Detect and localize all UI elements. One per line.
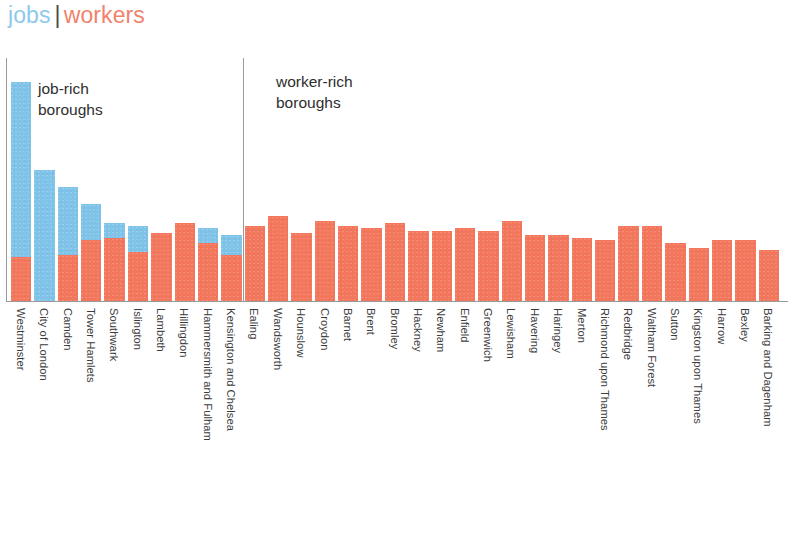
bar-tower-hamlets xyxy=(81,204,101,301)
x-axis-labels: WestminsterCity of LondonCamdenTower Ham… xyxy=(6,304,788,538)
bar-waltham-forest xyxy=(642,226,662,301)
bar-segment-workers xyxy=(104,238,124,301)
bar-segment-workers xyxy=(572,238,592,301)
bar-croydon xyxy=(315,221,335,301)
bar-harrow xyxy=(712,240,732,301)
x-axis-label: Waltham Forest xyxy=(645,308,656,387)
x-axis-label: Brent xyxy=(365,308,376,335)
bar-segment-workers xyxy=(642,226,662,301)
bar-bexley xyxy=(735,240,755,301)
bar-segment-workers xyxy=(408,231,428,301)
annotation-worker-rich: worker-rich boroughs xyxy=(276,71,353,113)
annotation-job-rich: job-rich boroughs xyxy=(38,78,103,120)
bar-segment-workers xyxy=(385,223,405,301)
x-axis-label: Sutton xyxy=(669,308,680,341)
x-axis-label: Lambeth xyxy=(155,308,166,352)
bar-newham xyxy=(432,231,452,301)
bar-hillingdon xyxy=(175,223,195,301)
x-axis-label: Ealing xyxy=(248,308,259,339)
bar-kingston-upon-thames xyxy=(689,248,709,301)
bar-segment-workers xyxy=(338,226,358,301)
bar-barking-and-dagenham xyxy=(759,250,779,301)
bar-bromley xyxy=(385,223,405,301)
bar-haringey xyxy=(548,235,568,301)
x-axis-label: Redbridge xyxy=(622,308,633,360)
x-axis-label: Havering xyxy=(529,308,540,353)
bar-segment-jobs xyxy=(11,82,31,257)
x-axis-label: Bromley xyxy=(388,308,399,349)
x-axis-label: Kensington and Chelsea xyxy=(225,308,236,431)
bar-segment-workers xyxy=(58,255,78,301)
x-axis-label: Hammersmith and Fulham xyxy=(201,308,212,441)
bar-segment-workers xyxy=(478,231,498,301)
bar-hammersmith-and-fulham xyxy=(198,228,218,301)
x-axis-label: Kingston upon Thames xyxy=(692,308,703,424)
x-axis-label: Harrow xyxy=(715,308,726,344)
x-axis-label: Enfield xyxy=(458,308,469,343)
bar-westminster xyxy=(11,82,31,301)
bar-ealing xyxy=(245,226,265,301)
bar-segment-workers xyxy=(81,240,101,301)
bar-segment-jobs xyxy=(104,223,124,238)
bar-barnet xyxy=(338,226,358,301)
chart-title: jobs|workers xyxy=(8,2,145,29)
bar-hounslow xyxy=(291,233,311,301)
bar-segment-workers xyxy=(759,250,779,301)
bar-lewisham xyxy=(502,221,522,301)
bar-camden xyxy=(58,187,78,301)
x-axis-label: City of London xyxy=(38,308,49,381)
bar-brent xyxy=(361,228,381,301)
x-axis-label: Southwark xyxy=(108,308,119,361)
bar-segment-jobs xyxy=(221,235,241,254)
x-axis-label: Islington xyxy=(131,308,142,350)
bar-segment-workers xyxy=(548,235,568,301)
bar-islington xyxy=(128,226,148,301)
bar-segment-jobs xyxy=(81,204,101,240)
bar-segment-workers xyxy=(595,240,615,301)
x-axis-label: Camden xyxy=(61,308,72,351)
x-axis-label: Wandsworth xyxy=(272,308,283,370)
bar-havering xyxy=(525,235,545,301)
bar-segment-jobs xyxy=(128,226,148,253)
bar-segment-workers xyxy=(455,228,475,301)
bar-segment-workers xyxy=(432,231,452,301)
x-axis-label: Hillingdon xyxy=(178,308,189,358)
x-axis-label: Croydon xyxy=(318,308,329,351)
x-axis-label: Hounslow xyxy=(295,308,306,358)
bar-greenwich xyxy=(478,231,498,301)
bar-segment-workers xyxy=(618,226,638,301)
bar-segment-workers xyxy=(11,257,31,301)
bar-kensington-and-chelsea xyxy=(221,235,241,301)
bar-enfield xyxy=(455,228,475,301)
bar-richmond-upon-thames xyxy=(595,240,615,301)
jobs-workers-chart: jobs|workers job-rich boroughs worker-ri… xyxy=(0,0,790,540)
x-axis-label: Barking and Dagenham xyxy=(762,308,773,427)
bar-segment-workers xyxy=(198,243,218,301)
bar-segment-workers xyxy=(689,248,709,301)
bar-segment-workers xyxy=(361,228,381,301)
x-axis-label: Greenwich xyxy=(482,308,493,362)
bar-segment-workers xyxy=(151,233,171,301)
x-axis-label: Merton xyxy=(575,308,586,343)
bar-segment-workers xyxy=(502,221,522,301)
bar-segment-workers xyxy=(221,255,241,301)
bar-segment-workers xyxy=(128,252,148,301)
legend-label-workers: workers xyxy=(64,2,145,28)
x-axis-label: Westminster xyxy=(15,308,26,371)
bar-lambeth xyxy=(151,233,171,301)
bar-city-of-london xyxy=(34,170,54,301)
bar-segment-workers xyxy=(291,233,311,301)
bar-sutton xyxy=(665,243,685,301)
x-axis-label: Hackney xyxy=(412,308,423,352)
bar-segment-workers xyxy=(525,235,545,301)
bar-segment-jobs xyxy=(198,228,218,243)
x-axis-label: Lewisham xyxy=(505,308,516,359)
legend-separator: | xyxy=(55,2,61,28)
bar-segment-workers xyxy=(665,243,685,301)
x-axis-label: Haringey xyxy=(552,308,563,353)
bar-merton xyxy=(572,238,592,301)
bar-segment-workers xyxy=(175,223,195,301)
x-axis-label: Barnet xyxy=(342,308,353,341)
bar-segment-workers xyxy=(268,216,288,301)
bar-segment-workers xyxy=(735,240,755,301)
